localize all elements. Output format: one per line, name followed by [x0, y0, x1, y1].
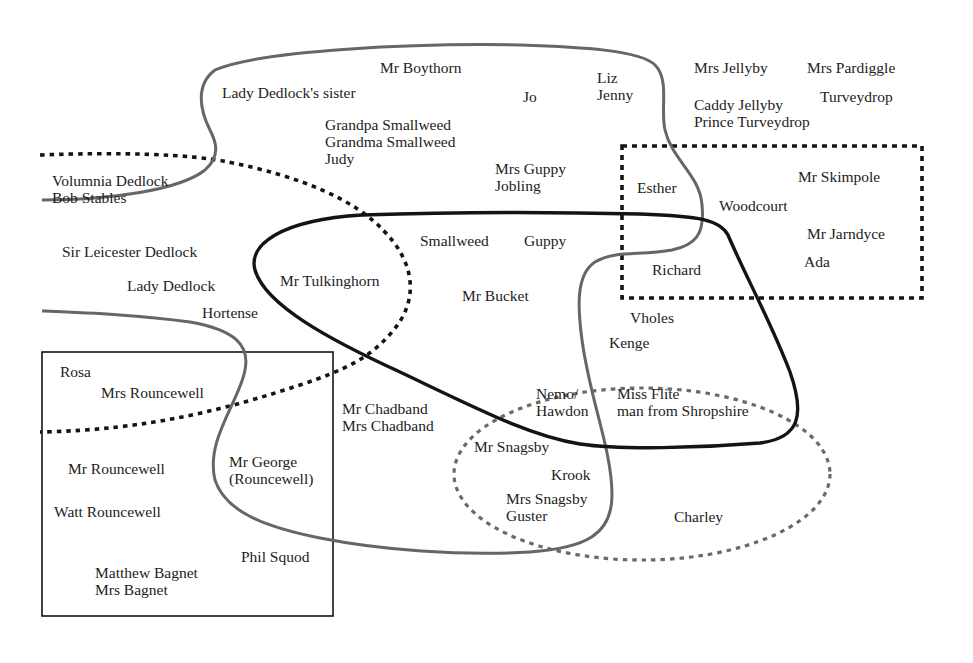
character-label: Mrs Guppy Jobling [495, 160, 566, 194]
character-label: Charley [674, 508, 723, 525]
character-label: Miss Flite man from Shropshire [617, 385, 749, 419]
character-label: Rosa [60, 363, 91, 380]
character-label: Jo [523, 88, 537, 105]
character-label: Mr Chadband Mrs Chadband [342, 400, 434, 434]
character-label: Volumnia Dedlock Bob Stables [52, 172, 168, 206]
character-label: Mr George (Rouncewell) [229, 453, 313, 487]
character-label: Woodcourt [719, 197, 788, 214]
character-label: Hortense [202, 304, 258, 321]
character-label: Ada [804, 253, 830, 270]
character-label: Turveydrop [820, 88, 893, 105]
character-label: Caddy Jellyby Prince Turveydrop [694, 96, 810, 130]
character-label: Mrs Pardiggle [807, 59, 895, 76]
character-label: Kenge [609, 334, 649, 351]
character-label: Richard [652, 261, 701, 278]
character-label: Guppy [524, 232, 566, 249]
character-label: Watt Rouncewell [54, 503, 161, 520]
character-diagram: Mr BoythornLady Dedlock's sisterJoLiz Je… [0, 0, 973, 663]
character-label: Mr Tulkinghorn [280, 272, 380, 289]
character-label: Mr Rouncewell [68, 460, 165, 477]
character-label: Mr Snagsby [474, 438, 549, 455]
character-label: Sir Leicester Dedlock [62, 243, 197, 260]
character-label: Smallweed [420, 232, 489, 249]
character-label: Mrs Jellyby [694, 59, 768, 76]
character-label: Mr Boythorn [380, 59, 461, 76]
character-label: Krook [551, 466, 591, 483]
character-label: Phil Squod [241, 548, 309, 565]
character-label: Mrs Rouncewell [101, 384, 204, 401]
character-label: Lady Dedlock [127, 277, 215, 294]
character-label: Mrs Snagsby Guster [506, 490, 587, 524]
character-label: Mr Skimpole [798, 168, 880, 185]
character-label: Grandpa Smallweed Grandma Smallweed Judy [325, 116, 455, 167]
character-label: Mr Bucket [462, 287, 529, 304]
character-label: Esther [637, 179, 677, 196]
character-label: Matthew Bagnet Mrs Bagnet [95, 564, 198, 598]
character-label: Vholes [630, 309, 674, 326]
character-label: Liz Jenny [597, 69, 633, 103]
character-label: Mr Jarndyce [807, 225, 885, 242]
character-label: Nemo/ Hawdon [536, 385, 589, 419]
character-label: Lady Dedlock's sister [222, 84, 356, 101]
